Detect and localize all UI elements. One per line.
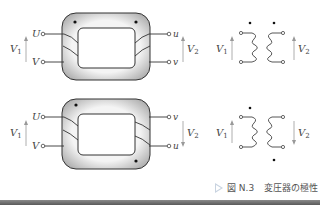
terminal — [239, 60, 242, 63]
terminal-v — [167, 60, 171, 64]
terminal — [239, 145, 242, 148]
terminal-V — [41, 144, 45, 148]
primary-coil — [242, 117, 257, 147]
label-U: U — [32, 111, 41, 122]
caption-title: 変圧器の極性 — [264, 181, 318, 194]
arrow-up-icon — [230, 36, 234, 41]
terminal — [281, 60, 284, 63]
secondary-coil — [267, 117, 282, 147]
label-V: V — [32, 56, 41, 67]
triangle-right-icon — [215, 183, 223, 193]
label-u: u — [173, 141, 179, 151]
terminal-U — [41, 32, 45, 36]
arrow-up-icon — [24, 36, 28, 41]
polarity-dot-icon — [74, 103, 77, 106]
voltage-V2: V2 — [187, 127, 199, 140]
top-core-transformer: U V u v V1 V2 — [10, 13, 199, 80]
primary-coil — [242, 33, 257, 62]
arrow-down-icon — [292, 140, 296, 145]
terminal — [281, 145, 284, 148]
polarity-dot-icon — [273, 159, 276, 162]
terminal-v — [167, 115, 171, 119]
polarity-dot-icon — [73, 20, 76, 23]
voltage-V2: V2 — [187, 43, 199, 56]
terminal — [281, 31, 284, 34]
core-window — [78, 28, 135, 68]
transformer-polarity-figure: U V u v V1 V2 V1 V2 — [0, 0, 320, 205]
arrow-up-icon — [230, 120, 234, 125]
label-U: U — [32, 28, 41, 39]
terminal — [281, 115, 284, 118]
label-v: v — [173, 112, 178, 122]
caption-prefix: 図 N.3 — [227, 181, 254, 194]
voltage-V1: V1 — [216, 127, 228, 140]
voltage-V2: V2 — [298, 43, 310, 56]
bottom-core-transformer: U V v u V1 V2 — [10, 99, 199, 169]
arrow-down-icon — [181, 142, 185, 147]
label-u: u — [173, 29, 179, 39]
label-V: V — [32, 140, 41, 151]
polarity-dot-icon — [249, 107, 252, 110]
arrow-up-icon — [24, 120, 28, 125]
label-v: v — [173, 57, 178, 67]
bottom-schematic: V1 V2 — [216, 107, 310, 162]
arrow-up-icon — [181, 36, 185, 41]
terminal-u — [167, 32, 171, 36]
terminal — [239, 31, 242, 34]
arrow-up-icon — [292, 36, 296, 41]
voltage-V2: V2 — [298, 127, 310, 140]
terminal-U — [41, 115, 45, 119]
polarity-dot-icon — [273, 22, 276, 25]
terminal-V — [41, 60, 45, 64]
figure-caption: 図 N.3 変圧器の極性 — [215, 181, 318, 194]
terminal-u — [167, 144, 171, 148]
terminal — [239, 115, 242, 118]
voltage-V1: V1 — [10, 43, 22, 56]
secondary-coil — [267, 33, 282, 62]
polarity-dot-icon — [249, 22, 252, 25]
core-window — [78, 114, 135, 155]
voltage-V1: V1 — [216, 43, 228, 56]
bottom-divider-bar — [0, 200, 320, 205]
top-schematic: V1 V2 — [216, 22, 310, 64]
polarity-dot-icon — [134, 159, 137, 162]
voltage-V1: V1 — [10, 127, 22, 140]
polarity-dot-icon — [134, 20, 137, 23]
